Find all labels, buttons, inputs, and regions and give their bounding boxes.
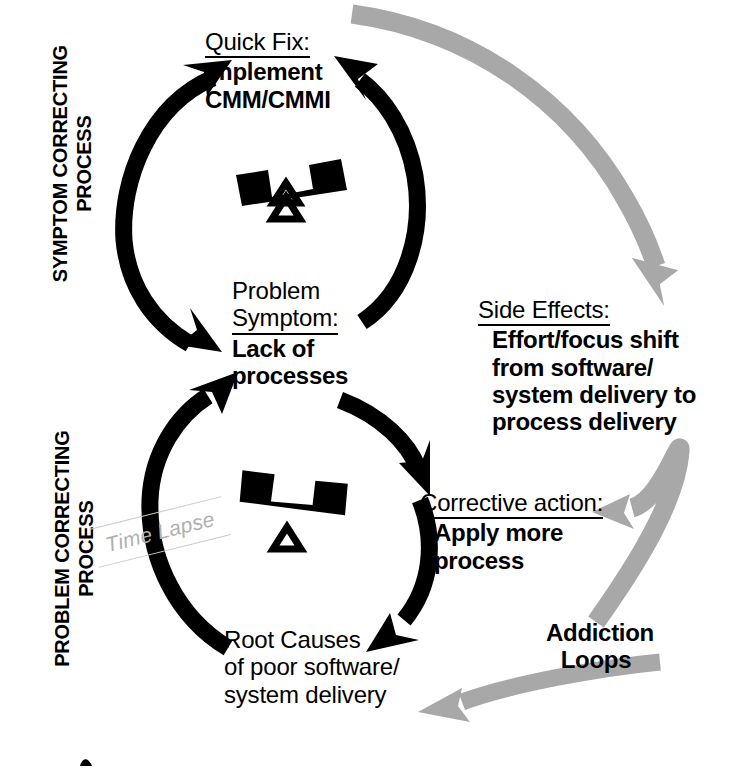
label-problem-line1: PROBLEM CORRECTING [51, 414, 75, 684]
node-quick-fix: Quick Fix: Implement CMM/CMMI [205, 28, 331, 113]
quick-fix-line1: Implement [205, 58, 331, 85]
seesaw-balance-icon-2 [234, 455, 354, 549]
addiction-loops-line2: Loops [538, 647, 654, 674]
diagram-canvas: SYMPTOM CORRECTING PROCESS PROBLEM CORRE… [0, 0, 732, 768]
gray-arrow-side-effects-to-corrective-action [592, 448, 680, 622]
side-effects-line2: from software/ [478, 354, 696, 381]
root-causes-line3: system delivery [224, 681, 399, 708]
side-effects-header: Side Effects: [478, 296, 610, 326]
node-side-effects: Side Effects: Effort/focus shift from so… [478, 296, 696, 436]
problem-symptom-header-line1: Problem [232, 277, 348, 304]
corrective-action-line1: Apply more [420, 519, 603, 546]
corrective-action-header: Corrective action: [420, 489, 603, 519]
node-problem-symptom: Problem Symptom: Lack of processes [232, 277, 348, 389]
side-effects-line4: process delivery [478, 408, 696, 435]
problem-symptom-line2: processes [232, 362, 348, 389]
label-symptom-correcting-process: SYMPTOM CORRECTING PROCESS [49, 29, 96, 299]
addiction-loops-line1: Addiction [546, 620, 654, 647]
root-causes-line2: of poor software/ [224, 653, 399, 680]
fulcrum-triangle-2 [273, 527, 301, 549]
side-effects-line3: system delivery to [478, 381, 696, 408]
label-problem-correcting-process: PROBLEM CORRECTING PROCESS [51, 414, 98, 684]
side-effects-line1: Effort/focus shift [478, 326, 696, 353]
root-causes-line1: Root Causes [224, 626, 399, 653]
label-symptom-line1: SYMPTOM CORRECTING [49, 29, 73, 299]
cropped-bottom-mark [80, 759, 92, 766]
node-root-causes: Root Causes of poor software/ system del… [224, 626, 399, 708]
label-symptom-line2: PROCESS [73, 29, 97, 299]
node-corrective-action: Corrective action: Apply more process [420, 489, 603, 574]
seesaw-balance-icon [236, 159, 347, 219]
quick-fix-line2: CMM/CMMI [205, 86, 331, 113]
problem-symptom-header-line2: Symptom: [232, 304, 338, 334]
problem-symptom-line1: Lack of [232, 335, 348, 362]
arrowhead-to-problem-symptom-left [178, 308, 222, 352]
quick-fix-header: Quick Fix: [205, 28, 310, 58]
arc-bottom-right-upper [340, 400, 430, 496]
corrective-action-line2: process [420, 547, 603, 574]
caption-addiction-loops: Addiction Loops [546, 620, 654, 674]
